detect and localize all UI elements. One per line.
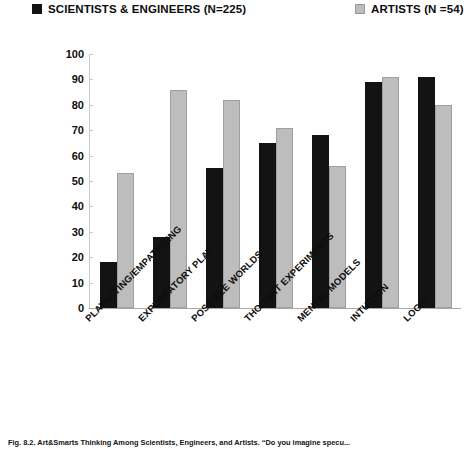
bar-artists[interactable]: [382, 77, 399, 308]
y-axis-tick-label: 90: [56, 74, 84, 85]
x-axis-category-labels: PLAYACTING/EMPATHIZINGEXPLORATORY PLAYPO…: [0, 310, 472, 430]
y-axis-tick-mark: [89, 54, 93, 55]
y-axis-tick-mark: [89, 130, 93, 131]
y-axis-tick-mark: [89, 206, 93, 207]
bar-scientists-engineers[interactable]: [418, 77, 435, 308]
figure-caption: Fig. 8.2. Art&Smarts Thinking Among Scie…: [8, 438, 470, 447]
y-axis-tick-label: 100: [56, 49, 84, 60]
y-axis-tick-label: 30: [56, 226, 84, 237]
y-axis-tick-mark: [89, 257, 93, 258]
y-axis-tick-mark: [89, 283, 93, 284]
bar-group: [408, 54, 461, 308]
y-axis-tick-mark: [89, 105, 93, 106]
y-axis-tick-label: 10: [56, 277, 84, 288]
bar-scientists-engineers[interactable]: [365, 82, 382, 308]
y-axis-tick-mark: [89, 156, 93, 157]
y-axis-tick-label: 70: [56, 125, 84, 136]
bar-series-container: [90, 54, 461, 308]
y-axis-tick-label: 50: [56, 176, 84, 187]
y-axis-tick-mark: [89, 232, 93, 233]
y-axis-tick-label: 60: [56, 150, 84, 161]
y-axis-tick-labels: 1009080706050403020100: [56, 47, 84, 315]
y-axis-tick-mark: [89, 181, 93, 182]
bar-scientists-engineers[interactable]: [312, 135, 329, 308]
bar-group: [355, 54, 408, 308]
y-axis-tick-label: 80: [56, 99, 84, 110]
y-axis-tick-mark: [89, 79, 93, 80]
bar-artists[interactable]: [435, 105, 452, 308]
y-axis-tick-label: 20: [56, 252, 84, 263]
y-axis-tick-label: 40: [56, 201, 84, 212]
